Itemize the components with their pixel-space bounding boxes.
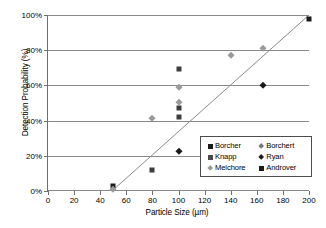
y-tick-label: 40% — [26, 116, 42, 125]
diamond-icon — [258, 154, 264, 160]
x-tick-label: 60 — [122, 196, 131, 205]
y-tick-label: 100% — [22, 11, 42, 20]
legend-label-ryan: Ryan — [266, 151, 307, 162]
x-tick-label: 100 — [172, 196, 185, 205]
legend-row: BorcherBorchert — [205, 140, 307, 151]
legend-table: BorcherBorchertKnappRyanMelchoreAndrover — [205, 140, 307, 173]
legend-row: MelchoreAndrover — [205, 162, 307, 173]
x-tick — [257, 191, 258, 195]
y-tick-label: 0% — [30, 187, 42, 196]
data-point-knapp — [176, 106, 181, 111]
data-point-knapp — [150, 167, 155, 172]
y-axis-title: Detection Probability (%) — [21, 13, 30, 173]
data-point-knapp — [176, 66, 181, 71]
x-tick-label: 180 — [276, 196, 289, 205]
legend-marker-borcher — [205, 140, 215, 151]
x-tick-label: 0 — [46, 196, 50, 205]
diamond-icon — [207, 165, 213, 171]
x-tick-label: 140 — [224, 196, 237, 205]
legend-marker-androver — [256, 162, 266, 173]
square-icon — [208, 144, 213, 149]
x-tick — [283, 191, 284, 195]
scatter-chart: Detection Probability (%) 0%20%40%60%80%… — [0, 0, 326, 228]
x-tick — [48, 191, 49, 195]
legend-marker-knapp — [205, 151, 215, 162]
x-tick — [74, 191, 75, 195]
x-tick — [179, 191, 180, 195]
x-tick-label: 160 — [250, 196, 263, 205]
legend-label-melchore: Melchore — [215, 162, 256, 173]
legend-marker-melchore — [205, 162, 215, 173]
plot-area: 0%20%40%60%80%100% 020406080100120140160… — [47, 15, 308, 191]
x-tick-label: 40 — [96, 196, 105, 205]
legend-marker-ryan — [256, 151, 266, 162]
y-tick-label: 20% — [26, 151, 42, 160]
y-tick-label: 80% — [26, 46, 42, 55]
square-icon — [208, 155, 213, 160]
y-tick-label: 60% — [26, 81, 42, 90]
legend-label-borcher: Borcher — [215, 140, 256, 151]
x-tick — [231, 191, 232, 195]
data-point-androver — [307, 16, 312, 21]
data-point-knapp — [176, 115, 181, 120]
diamond-icon — [258, 143, 264, 149]
x-tick — [152, 191, 153, 195]
legend-marker-borchert — [256, 140, 266, 151]
x-tick — [205, 191, 206, 195]
x-tick-label: 200 — [302, 196, 315, 205]
x-axis-title: Particle Size (µm) — [46, 208, 308, 217]
x-tick-label: 20 — [70, 196, 79, 205]
x-tick-label: 80 — [148, 196, 157, 205]
chart-legend: BorcherBorchertKnappRyanMelchoreAndrover — [200, 136, 312, 177]
legend-label-androver: Androver — [266, 162, 307, 173]
square-icon — [259, 166, 264, 171]
legend-label-knapp: Knapp — [215, 151, 256, 162]
x-tick — [309, 191, 310, 195]
x-tick-label: 120 — [198, 196, 211, 205]
x-tick — [126, 191, 127, 195]
legend-label-borchert: Borchert — [266, 140, 307, 151]
x-tick — [100, 191, 101, 195]
legend-row: KnappRyan — [205, 151, 307, 162]
